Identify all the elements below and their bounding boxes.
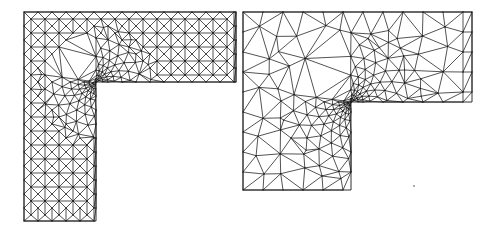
mesh-figure bbox=[0, 0, 497, 231]
print-specks bbox=[413, 185, 415, 187]
speck-dot bbox=[413, 185, 415, 187]
figure-canvas bbox=[0, 0, 497, 231]
left-l-shaped-mesh bbox=[24, 12, 236, 221]
mesh-edges bbox=[24, 12, 236, 221]
right-l-shaped-mesh bbox=[243, 12, 472, 190]
mesh-edges bbox=[243, 12, 472, 190]
mesh-boundary bbox=[243, 12, 472, 190]
